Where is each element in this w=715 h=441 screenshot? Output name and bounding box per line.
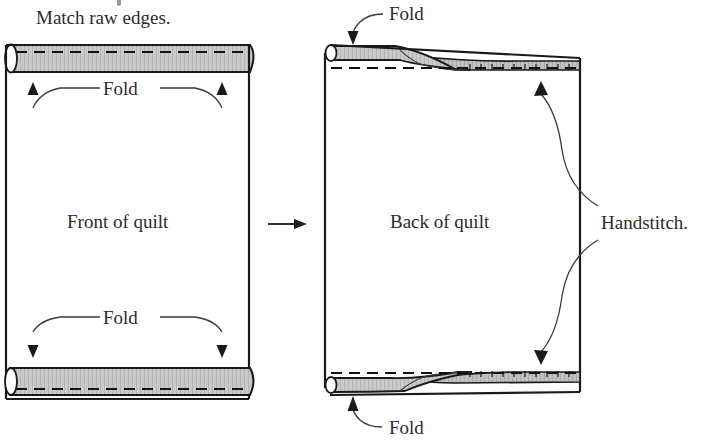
right-arrow-icon <box>268 219 307 229</box>
front-of-quilt-label: Front of quilt <box>67 211 169 232</box>
right-top-fold-callout: Fold <box>348 3 425 45</box>
right-bottom-fold-arrow <box>348 396 359 411</box>
quilt-binding-diagram: Match raw edges. <box>0 0 715 441</box>
left-quilt-panel: Fold Fold Front of quilt <box>5 37 254 399</box>
right-top-binding-rolled-end <box>326 45 337 61</box>
right-quilt-panel: Fold Fold Handstitch. Back of quilt <box>325 3 688 438</box>
diagram-canvas: Match raw edges. <box>0 0 715 441</box>
left-bottom-binding-shape <box>7 368 254 395</box>
back-of-quilt-label: Back of quilt <box>390 211 490 232</box>
left-top-binding-shape <box>7 45 254 72</box>
match-raw-edges-note: Match raw edges. <box>36 7 171 28</box>
right-bottom-fold-callout: Fold <box>348 396 425 438</box>
left-bottom-binding-strip <box>5 368 254 395</box>
left-bottom-fold-label: Fold <box>103 307 138 328</box>
handstitch-label: Handstitch. <box>601 212 688 233</box>
right-top-fold-arrow <box>348 31 359 45</box>
right-top-fold-label: Fold <box>389 3 424 24</box>
left-top-fold-label: Fold <box>103 78 138 99</box>
left-bottom-binding-rolled-end <box>5 368 17 395</box>
clipped-descender-mark <box>117 0 121 6</box>
right-bottom-fold-label: Fold <box>389 417 424 438</box>
left-top-binding-strip <box>5 45 254 73</box>
right-bottom-binding-rolled-end <box>326 377 337 393</box>
